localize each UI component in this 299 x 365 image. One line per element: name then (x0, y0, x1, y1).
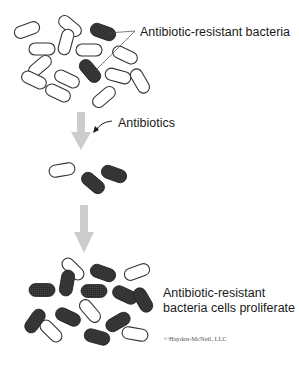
proliferation (22, 256, 155, 347)
normal-bacterium (90, 84, 118, 110)
normal-bacterium (57, 28, 75, 56)
down-arrow-1 (71, 112, 91, 150)
resistant-bacterium (53, 306, 82, 329)
normal-bacterium (77, 297, 103, 325)
normal-bacterium (123, 262, 152, 282)
resistant-bacterium (83, 327, 111, 346)
proliferate-label-line2: bacteria cells proliferate (163, 301, 299, 316)
down-arrow-2 (74, 205, 94, 253)
resistant-bacterium (89, 262, 118, 283)
resistant-bacterium (77, 57, 104, 85)
antibiotics-label: Antibiotics (118, 116, 175, 130)
resistant-bacterium (58, 269, 75, 297)
resistant-bacterium (100, 163, 129, 184)
normal-bacterium (128, 67, 151, 96)
resistant-bacterium (29, 284, 55, 297)
copyright-notice: ©Hayden-McNeil, LLC (164, 335, 227, 342)
proliferate-label: Antibiotic-resistant bacteria cells prol… (163, 286, 299, 316)
normal-bacterium (76, 44, 102, 56)
normal-bacterium (48, 162, 76, 178)
resistant-bacterium (89, 21, 118, 42)
normal-bacterium (121, 326, 149, 342)
normal-bacterium (29, 43, 55, 55)
normal-bacterium (13, 20, 42, 40)
initial-population (13, 13, 152, 110)
proliferate-label-line1: Antibiotic-resistant (163, 286, 299, 301)
resistant-bacterium (81, 285, 107, 298)
resistant-bacteria-label: Antibiotic-resistant bacteria (140, 25, 290, 39)
normal-bacterium (104, 67, 132, 85)
normal-bacterium (111, 44, 140, 66)
after-antibiotics (48, 162, 128, 197)
